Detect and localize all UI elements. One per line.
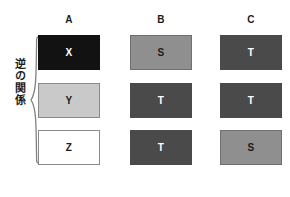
cell-b1: S — [130, 35, 192, 70]
cell-c3: S — [220, 130, 282, 165]
cell-b3: T — [130, 130, 192, 165]
cell-a2: Y — [38, 83, 100, 118]
column-header-b: B — [130, 14, 192, 25]
cell-a1: X — [38, 35, 100, 70]
cell-b2: T — [130, 83, 192, 118]
column-header-c: C — [220, 14, 282, 25]
column-header-a: A — [38, 14, 100, 25]
cell-c1: T — [220, 35, 282, 70]
inverse-relationship-label: 逆の関係 — [6, 58, 26, 106]
cell-a3: Z — [38, 130, 100, 165]
cell-c2: T — [220, 83, 282, 118]
relationship-diagram: A B C 逆の関係 X S T Y T T Z T S — [0, 0, 290, 197]
